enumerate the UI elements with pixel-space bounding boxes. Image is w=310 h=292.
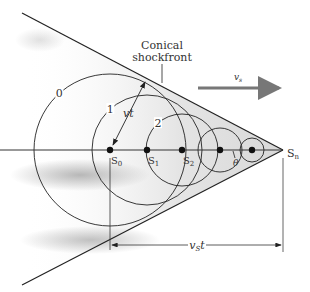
- source-point: [107, 147, 113, 153]
- source-point: [179, 147, 185, 153]
- shockwave-diagram: vt Conical shockfront vs θ Sn vSt 012 S0…: [0, 0, 310, 292]
- theta-label: θ: [233, 158, 239, 168]
- velocity-label: vs: [234, 72, 242, 83]
- apex-label-Sn: Sn: [287, 147, 300, 161]
- wavefront-label: 2: [155, 117, 162, 130]
- shade-band: [10, 159, 150, 191]
- wavefront-label: 0: [56, 87, 63, 100]
- diagram-canvas: vt Conical shockfront vs θ Sn vSt 012 S0…: [0, 0, 310, 292]
- vt-label: vt: [123, 107, 134, 120]
- vst-label: vSt: [189, 239, 205, 253]
- source-point: [249, 147, 255, 153]
- wavefront-label: 1: [107, 103, 114, 116]
- shockfront-label: shockfront: [132, 51, 192, 64]
- source-point: [144, 147, 150, 153]
- source-point: [217, 147, 223, 153]
